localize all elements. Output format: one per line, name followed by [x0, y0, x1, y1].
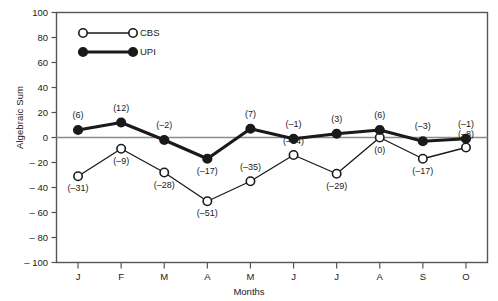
data-point-label: (–9) [101, 156, 141, 166]
x-tick-label: J [63, 271, 93, 282]
data-point-label: (–1) [274, 119, 314, 129]
x-tick-label: M [149, 271, 179, 282]
data-point-label: (–29) [317, 181, 357, 191]
legend-entry-upi: UPI [140, 46, 156, 57]
data-point-label: (–17) [187, 166, 227, 176]
y-tick-label: – 40 [8, 182, 48, 193]
x-tick-label: S [408, 271, 438, 282]
y-tick-label: 60 [8, 57, 48, 68]
y-tick-label: 0 [8, 132, 48, 143]
data-point-label: (–1) [446, 119, 486, 129]
x-tick-label: O [451, 271, 481, 282]
x-tick-label: J [279, 271, 309, 282]
y-tick-label: – 100 [8, 257, 48, 268]
chart-figure: Algebraic Sum Months 100806040200– 20– 4… [0, 0, 498, 301]
x-tick-label: F [106, 271, 136, 282]
data-point-label: (–14) [274, 136, 314, 146]
legend-glyphs [79, 29, 137, 56]
data-point-label: (–51) [187, 208, 227, 218]
data-point-label: (0) [360, 145, 400, 155]
data-point-label: (–17) [403, 166, 443, 176]
data-point-label: (–28) [144, 180, 184, 190]
data-point-label: (6) [58, 110, 98, 120]
data-point-label: (–8) [446, 129, 486, 139]
data-point-label: (–35) [230, 162, 270, 172]
x-tick-label: M [235, 271, 265, 282]
chart-plot-area [0, 0, 498, 301]
y-tick-label: – 60 [8, 207, 48, 218]
x-axis-title: Months [0, 286, 498, 297]
data-point-label: (12) [101, 103, 141, 113]
data-point-label: (–31) [58, 183, 98, 193]
y-tick-label: – 20 [8, 157, 48, 168]
y-tick-label: 40 [8, 82, 48, 93]
y-tick-label: 20 [8, 107, 48, 118]
x-tick-label: A [192, 271, 222, 282]
data-point-label: (3) [317, 114, 357, 124]
data-point-label: (7) [230, 109, 270, 119]
data-point-label: (–2) [144, 120, 184, 130]
y-tick-label: – 80 [8, 232, 48, 243]
data-point-label: (–3) [403, 121, 443, 131]
y-tick-label: 100 [8, 7, 48, 18]
y-tick-label: 80 [8, 32, 48, 43]
x-tick-label: J [322, 271, 352, 282]
data-point-label: (6) [360, 110, 400, 120]
x-tick-label: A [365, 271, 395, 282]
legend-entry-cbs: CBS [140, 27, 160, 38]
y-axis-ticks [52, 13, 57, 263]
x-axis-ticks [78, 263, 466, 269]
